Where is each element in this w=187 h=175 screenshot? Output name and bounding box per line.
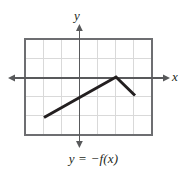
graph-figure [0,0,187,175]
y-axis-label: y [74,9,80,22]
figure-background [0,0,187,175]
figure-caption: y = −f(x) [0,151,187,167]
x-axis-label: x [172,70,178,83]
